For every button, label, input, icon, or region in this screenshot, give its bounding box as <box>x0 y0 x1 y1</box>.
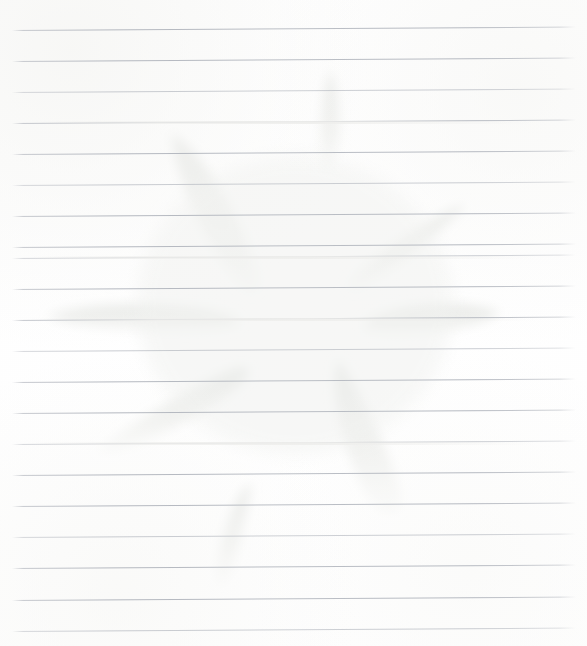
paper-background <box>0 0 587 646</box>
scanned-page <box>0 0 587 646</box>
